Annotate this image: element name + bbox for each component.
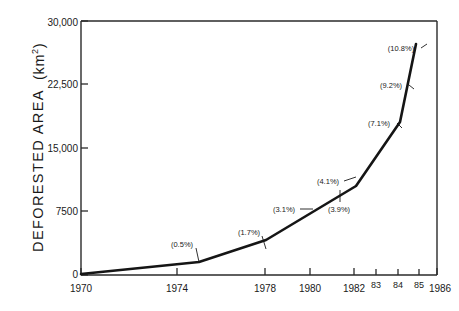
leader-9-2-percent — [409, 85, 414, 89]
chart-figure: DEFORESTED AREA (km2) 0 7500 15,000 22,5… — [0, 0, 459, 311]
deforestation-line — [81, 44, 416, 274]
leader-1-7-percent — [262, 236, 266, 249]
leader-10-8-percent — [421, 44, 427, 48]
y-axis-ticks — [81, 21, 88, 275]
leader-4-1-percent — [344, 177, 356, 181]
annotation-leaders — [196, 44, 427, 262]
plot-area — [0, 0, 459, 311]
leader-0-5-percent — [196, 248, 199, 262]
